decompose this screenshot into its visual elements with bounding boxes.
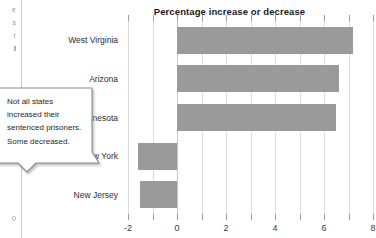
tick-bottom-minor-7 xyxy=(349,214,350,220)
tick-top-minor-5 xyxy=(300,15,301,21)
category-label: New Jersey xyxy=(74,190,118,200)
bar-minnesota xyxy=(177,104,336,131)
x-tick-label: 8 xyxy=(370,223,375,233)
bar-arizona xyxy=(177,65,339,92)
tick-top-minor--1 xyxy=(153,15,154,21)
bleed-text-line-3: r xyxy=(14,32,16,39)
tick-bottom-minor-1 xyxy=(202,214,203,220)
gridline-8 xyxy=(373,21,374,214)
tick-top-minor-1 xyxy=(202,15,203,21)
tick-bottom-4 xyxy=(275,214,276,220)
tick-bottom-8 xyxy=(373,214,374,220)
bleed-text-line-5: 0 xyxy=(12,215,16,222)
tick-top-minor-3 xyxy=(251,15,252,21)
tick-top-minor-7 xyxy=(349,15,350,21)
tick-bottom-minor--1 xyxy=(153,214,154,220)
x-tick-label: 4 xyxy=(272,223,277,233)
bleed-text-line-4: l xyxy=(14,45,16,52)
tick-top-8 xyxy=(373,15,374,21)
tick-bottom-2 xyxy=(226,214,227,220)
tick-top-6 xyxy=(324,15,325,21)
x-tick-label: 2 xyxy=(223,223,228,233)
callout-annotation: Not all states increased their sentenced… xyxy=(0,86,112,180)
x-tick-label: -2 xyxy=(124,223,132,233)
bar-new-jersey xyxy=(140,181,177,208)
bleed-text-line-1: e xyxy=(12,6,16,13)
tick-bottom-minor-3 xyxy=(251,214,252,220)
category-label: Arizona xyxy=(89,74,118,84)
bleed-text-line-2: s xyxy=(13,19,17,26)
bar-west-virginia xyxy=(177,27,353,54)
tick-bottom-minor-5 xyxy=(300,214,301,220)
tick-top--2 xyxy=(128,15,129,21)
tick-bottom-0 xyxy=(177,214,178,220)
plot-area: -202468West VirginiaArizonaMinnesotaNew … xyxy=(128,21,373,214)
bar-new-york xyxy=(138,143,177,170)
category-label: West Virginia xyxy=(68,35,118,45)
callout-text: Not all states increased their sentenced… xyxy=(7,95,89,148)
x-tick-label: 6 xyxy=(321,223,326,233)
tick-bottom--2 xyxy=(128,214,129,220)
tick-top-2 xyxy=(226,15,227,21)
chart-title: Percentage increase or decrease xyxy=(122,6,337,17)
tick-top-4 xyxy=(275,15,276,21)
gridline--2 xyxy=(128,21,129,214)
tick-bottom-6 xyxy=(324,214,325,220)
x-tick-label: 0 xyxy=(174,223,179,233)
tick-top-0 xyxy=(177,15,178,21)
